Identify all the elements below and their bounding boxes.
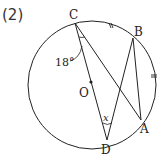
center-point-o	[89, 80, 92, 83]
label-a: A	[139, 122, 149, 136]
angle-arc-c	[79, 37, 85, 38]
segment-ba	[133, 38, 141, 120]
unknown-angle-label: x	[103, 112, 109, 123]
problem-number: (2)	[2, 6, 23, 24]
segment-bd	[107, 38, 133, 140]
label-o: O	[79, 86, 89, 100]
segment-ca	[75, 23, 141, 120]
angle-value-label: 18°	[55, 56, 75, 69]
label-c: C	[69, 8, 78, 22]
label-b: B	[134, 25, 143, 39]
label-d: D	[101, 143, 111, 156]
geometry-diagram: (2) C B O A D 18° x	[0, 0, 160, 156]
